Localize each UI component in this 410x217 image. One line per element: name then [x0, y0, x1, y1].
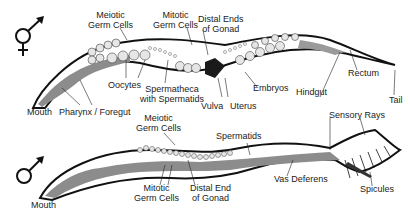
label-tail: Tail	[389, 95, 403, 105]
label-spicules: Spicules	[360, 184, 394, 194]
label-pharynx: Pharynx / Foregut	[59, 107, 131, 117]
label-spermatheca: Spermatheca with Spermatids	[140, 84, 204, 104]
hermaphrodite-worm	[33, 34, 395, 109]
label-uterus: Uterus	[230, 101, 257, 111]
label-distal-ends: Distal Ends of Gonad	[198, 14, 244, 34]
label-distal-end-male: Distal End of Gonad	[190, 183, 231, 203]
label-rectum: Rectum	[348, 68, 379, 78]
label-meiotic-germ-cells-herm: Meiotic Germ Cells	[88, 10, 133, 30]
male-symbol-icon	[12, 152, 48, 188]
label-vulva: Vulva	[201, 101, 223, 111]
label-spermatids: Spermatids	[216, 131, 262, 141]
label-mitotic-germ-cells-male: Mitotic Germ Cells	[134, 183, 179, 203]
label-meiotic-germ-cells-male: Meiotic Germ Cells	[136, 113, 181, 133]
label-mouth-male: Mouth	[31, 200, 56, 210]
label-mouth-herm: Mouth	[27, 107, 52, 117]
label-sensory-rays: Sensory Rays	[329, 110, 385, 120]
label-hindgut: Hindgut	[296, 87, 327, 97]
label-oocytes: Oocytes	[108, 80, 141, 90]
hermaphrodite-symbol-icon	[10, 10, 46, 58]
label-embryos: Embryos	[253, 83, 289, 93]
label-mitotic-germ-cells-herm: Mitotic Germ Cells	[153, 10, 198, 30]
label-vas-deferens: Vas Deferens	[274, 174, 328, 184]
